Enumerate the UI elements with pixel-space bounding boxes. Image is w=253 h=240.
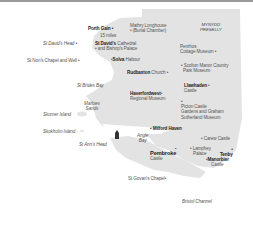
place-haverfordwest[interactable]: Haverfordwest• Regional Museum — [130, 91, 166, 101]
porth-gain-label: Porth Gain — [88, 26, 110, 31]
place-rudbaxton[interactable]: Rudbaxton Church • — [127, 70, 168, 75]
pembroke-line2: Castle — [150, 156, 176, 162]
place-picton[interactable]: • Picton Castle Gardens and Graham Suthe… — [181, 99, 224, 120]
place-marloes: Marloes Sands — [84, 101, 100, 111]
scolton-line2: Park Museum — [181, 68, 229, 73]
place-st-davids-cathedral[interactable]: St David's Cathedral • and Bishop's Pala… — [95, 41, 137, 51]
angle-bay-line2: Bay — [137, 138, 148, 143]
llawhaden-line2: Castle — [184, 88, 210, 93]
st-nons-label: St Non's Chapel and Well — [27, 58, 77, 63]
picton-line3: Sutherland Museum — [181, 115, 224, 120]
place-lamphey[interactable]: • Lamphey Palace — [190, 146, 211, 156]
penrhos-line2: Cottage Museum — [180, 49, 214, 54]
milford-haven-label: Milford Haven — [153, 126, 182, 131]
solva-label: Solva — [113, 57, 125, 62]
place-carew[interactable]: • Carew Castle — [201, 136, 230, 141]
place-tenby[interactable]: • Tenby — [220, 147, 233, 157]
place-angle-bay: Angle Bay — [137, 133, 148, 143]
solva-suffix: Habour — [125, 57, 139, 62]
place-st-nons[interactable]: St Non's Chapel and Well • — [27, 58, 79, 63]
rudbaxton-suffix: Church — [151, 70, 165, 75]
place-milford-haven[interactable]: • Milford Haven — [150, 126, 182, 131]
rudbaxton-label: Rudbaxton — [127, 70, 150, 75]
st-davids-cathedral-line2: and Bishop's Palace — [98, 46, 138, 51]
place-solva[interactable]: •Solva Habour — [111, 57, 140, 62]
place-st-anns-head: St Ann's Head — [79, 142, 107, 147]
place-scolton[interactable]: • Scolton Manor Country Park Museum — [181, 63, 229, 73]
st-davids-head-label: St David's Head — [43, 41, 74, 46]
manorbier-line2: Castle — [206, 162, 229, 167]
place-porth-gain[interactable]: Porth Gain • — [88, 26, 113, 31]
carew-label: Carew Castle — [204, 136, 230, 141]
place-mathry[interactable]: Mathry Longhouse • (Burial Chamber) — [130, 23, 166, 33]
place-st-davids-head[interactable]: St David's Head • — [43, 41, 77, 46]
place-bristol-channel: Bristol Channel — [182, 199, 212, 204]
place-penrhos[interactable]: Penrhos Cottage Museum • — [180, 44, 216, 54]
place-st-brides-bay: St Brides Bay — [77, 83, 104, 88]
scale-label: 15 miles — [100, 33, 116, 38]
skokholm-label: Skokholm Island — [43, 129, 75, 134]
lamphey-line2: Palace — [190, 151, 211, 156]
st-govans-label: St Govan's Chapel — [128, 176, 164, 181]
place-skokholm: Skokholm Island · — [43, 129, 78, 134]
place-st-govans[interactable]: St Govan's Chapel• — [128, 176, 166, 181]
picton-line2: Gardens and Graham — [181, 109, 224, 114]
mathry-line2: (Burial Chamber) — [133, 28, 166, 33]
region-line2: PRESELLY — [200, 27, 222, 32]
lighthouse-icon — [114, 130, 120, 139]
place-skomer: Skomer Island — [43, 112, 71, 117]
region-label: MYNYDD PRESELLY — [200, 22, 222, 32]
place-pembroke[interactable]: • Pembroke Castle — [150, 147, 176, 162]
place-manorbier[interactable]: •Manorbier Castle — [206, 157, 229, 167]
marloes-line2: Sands — [84, 106, 100, 111]
haverfordwest-line2: Regional Museum — [130, 96, 166, 101]
place-llawhaden[interactable]: Llawhaden • Castle — [184, 83, 210, 93]
